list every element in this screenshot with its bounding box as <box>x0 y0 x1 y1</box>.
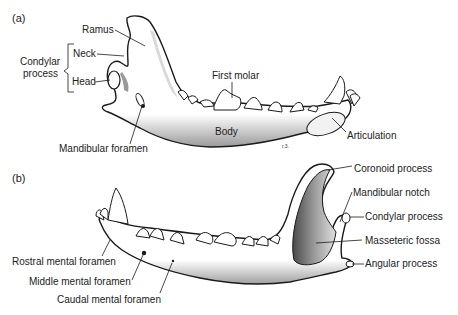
label-rostral-mental-foramen: Rostral mental foramen <box>12 256 116 268</box>
label-condylar-process-line2: process <box>23 68 58 80</box>
label-angular-process: Angular process <box>365 258 437 270</box>
label-head: Head <box>72 76 96 88</box>
label-condylar-process-line1: Condylar <box>20 56 60 68</box>
canine-b <box>108 188 128 224</box>
label-articulation: Articulation <box>347 130 396 142</box>
label-mandibular-foramen: Mandibular foramen <box>59 143 148 155</box>
label-middle-mental-foramen: Middle mental foramen <box>29 276 131 288</box>
label-caudal-mental-foramen: Caudal mental foramen <box>57 294 161 306</box>
label-neck: Neck <box>73 48 96 60</box>
panel-a-tag: (a) <box>12 12 25 24</box>
middle-mental-foramen-dot <box>142 251 146 255</box>
label-condylar-process-b: Condylar process <box>365 211 443 223</box>
caudal-mental-foramen-dot <box>172 260 174 262</box>
label-first-molar: First molar <box>212 70 259 82</box>
label-body: Body <box>215 126 238 138</box>
label-masseteric-fossa: Masseteric fossa <box>365 235 440 247</box>
label-mandibular-notch: Mandibular notch <box>353 187 430 199</box>
mandible-diagram: r.3. <box>0 0 458 315</box>
label-coronoid-process: Coronoid process <box>354 163 432 175</box>
label-ramus: Ramus <box>82 24 114 36</box>
panel-b-tag: (b) <box>12 172 25 184</box>
